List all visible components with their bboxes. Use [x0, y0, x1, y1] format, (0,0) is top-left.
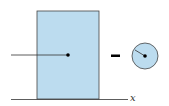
diagram-canvas: [0, 0, 169, 106]
x-axis-label: x: [130, 92, 136, 103]
rectangle-centroid-point: [66, 53, 70, 57]
minus-sign: [111, 55, 120, 58]
circle-centroid-point: [143, 54, 147, 58]
